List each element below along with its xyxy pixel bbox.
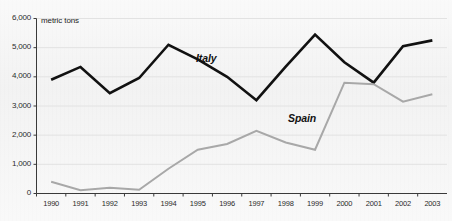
- x-axis-tick-label: 2003: [415, 199, 449, 208]
- chart-container: metric tons 01,0002,0003,0004,0005,0006,…: [0, 0, 452, 221]
- data-series-lines: [51, 35, 432, 191]
- y-axis-tick-label: 1,000: [1, 159, 31, 168]
- y-axis-tick-label: 4,000: [1, 71, 31, 80]
- series-label-spain: Spain: [288, 112, 316, 124]
- y-axis-tick-label: 6,000: [1, 13, 31, 22]
- y-axis-tick-label: 3,000: [1, 101, 31, 110]
- unit-label: metric tons: [41, 16, 79, 25]
- series-label-italy: Italy: [196, 52, 217, 64]
- y-axis-tick-label: 5,000: [1, 42, 31, 51]
- line-chart-plot: [0, 0, 452, 221]
- y-axis-tick-label: 2,000: [1, 130, 31, 139]
- y-axis-tick-label: 0: [1, 188, 31, 197]
